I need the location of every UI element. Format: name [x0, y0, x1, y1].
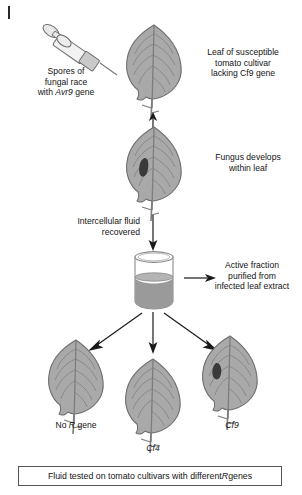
label-fluid-line2: recovered — [42, 227, 140, 238]
label-active-fraction: Active fraction purified from infected l… — [204, 260, 300, 292]
caption-pre: Fluid tested on tomato cultivars with di… — [48, 471, 222, 481]
label-no-r-post: gene — [75, 420, 97, 430]
label-cultivar-no-r-gene: No R gene — [31, 420, 121, 431]
label-spores-line3: with Avr9 gene — [10, 87, 122, 98]
figure-tick-mark — [8, 6, 10, 19]
fluid-surface — [135, 273, 173, 281]
label-no-r-pre: No — [55, 420, 68, 430]
label-fungus-develops: Fungus develops within leaf — [196, 152, 300, 173]
leaf-icon-cf4 — [117, 356, 189, 456]
caption-post: genes — [228, 471, 252, 481]
label-active-line1: Active fraction — [204, 260, 300, 271]
beaker-icon — [126, 249, 182, 311]
label-cultivar-cf4: Cf4 — [111, 443, 195, 454]
label-fungus-line2: within leaf — [196, 163, 300, 174]
label-fungus-line1: Fungus develops — [196, 152, 300, 163]
label-susceptible-line1: Leaf of susceptible — [190, 47, 296, 58]
label-spores-line3-post: gene — [73, 87, 95, 97]
label-cultivar-cf9: Cf9 — [190, 420, 274, 431]
label-active-line2: purified from — [204, 271, 300, 282]
label-susceptible-leaf: Leaf of susceptible tomato cultivar lack… — [190, 47, 296, 79]
arrow-icon-fluid-recovered — [146, 215, 160, 251]
arrow-icon-branch-center — [146, 312, 160, 354]
label-active-line3: infected leaf extract — [204, 281, 300, 292]
figure-canvas: Spores of fungal race with Avr9 gene Lea… — [0, 0, 302, 495]
label-spores: Spores of fungal race with Avr9 gene — [10, 66, 122, 98]
caption-box: Fluid tested on tomato cultivars with di… — [18, 466, 282, 486]
label-fluid-recovered: Intercellular fluid recovered — [42, 216, 140, 237]
leaf-icon-infected — [118, 124, 190, 224]
label-spores-line1: Spores of — [10, 66, 122, 77]
label-susceptible-line2: tomato cultivar — [190, 58, 296, 69]
leaf-icon-susceptible — [118, 22, 190, 122]
label-susceptible-line3: lacking Cf9 gene — [190, 68, 296, 79]
leaf-icon-cf9 — [194, 333, 266, 433]
gene-name-cf9: Cf9 — [225, 420, 238, 430]
gene-name-cf4: Cf4 — [146, 443, 159, 453]
label-fluid-line1: Intercellular fluid — [42, 216, 140, 227]
label-spores-line2: fungal race — [10, 77, 122, 88]
label-spores-line3-pre: with — [38, 87, 56, 97]
gene-name-avr9: Avr9 — [55, 87, 73, 97]
